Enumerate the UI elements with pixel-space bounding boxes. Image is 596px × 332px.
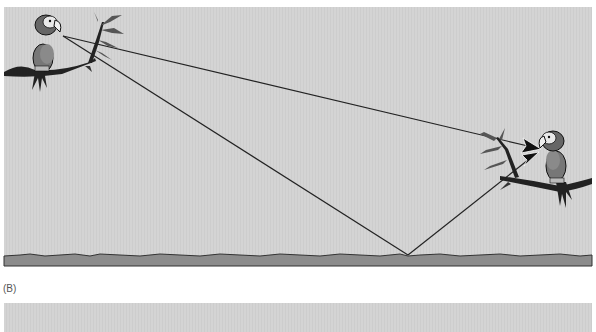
arrowhead-reflected: [522, 152, 539, 166]
ground: [4, 254, 592, 266]
panel-b: [4, 303, 592, 332]
branch-right: [480, 128, 592, 192]
parrot-right: [539, 131, 572, 208]
panel-b-label: (B): [3, 283, 16, 294]
branch-left: [4, 12, 124, 77]
reflected-path-down: [63, 36, 408, 255]
parrot-left: [32, 15, 61, 92]
reflected-path-up: [408, 160, 528, 255]
diagram-canvas: [0, 0, 596, 332]
direct-path: [63, 36, 528, 146]
